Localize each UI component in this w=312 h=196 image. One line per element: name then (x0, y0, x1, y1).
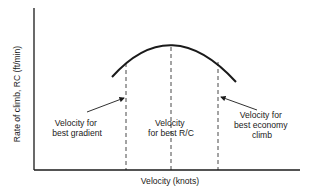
best-rc-label: Velocity for best R/C (148, 118, 194, 138)
best-gradient-arrow-icon (87, 98, 124, 112)
best-economy-arrow-icon (221, 97, 257, 110)
best-economy-label: Velocity for best economy climb (234, 110, 290, 140)
x-axis-label: Velocity (knots) (141, 176, 199, 186)
climb-performance-diagram: Velocity for best gradient Velocity for … (0, 0, 312, 196)
best-gradient-label: Velocity for best gradient (52, 118, 102, 138)
rate-of-climb-curve (112, 45, 236, 82)
y-axis-label: Rate of climb, RC (ft/min) (12, 46, 22, 143)
